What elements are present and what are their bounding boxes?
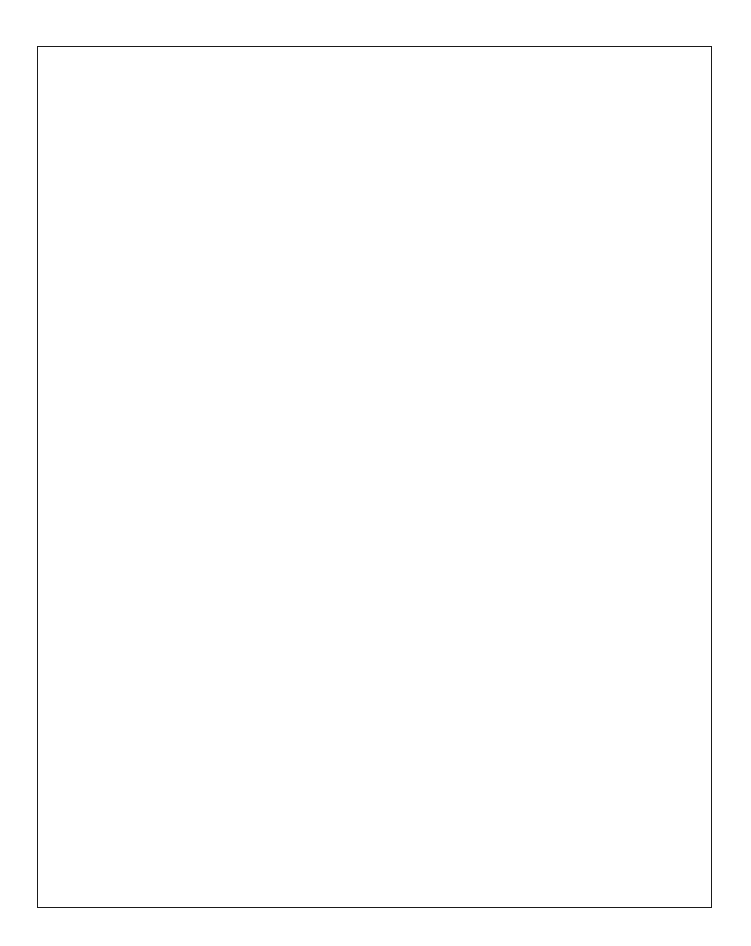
plate-border	[37, 46, 712, 908]
illustration-page: Needle insertedat C6 level Anterior scal…	[0, 0, 751, 946]
